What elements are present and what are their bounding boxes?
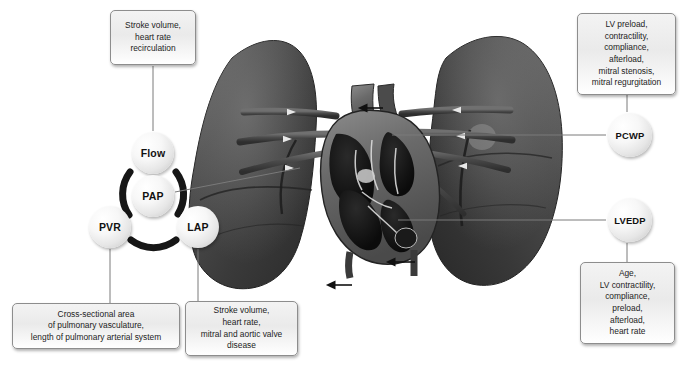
callout-pvr: Cross-sectional area of pulmonary vascul… [12, 303, 180, 349]
pressure-ring-arc [123, 172, 130, 215]
node-pcwp[interactable]: PCWP [608, 113, 652, 157]
diagram-canvas: Stroke volume, heart rate recirculation … [0, 0, 682, 368]
callout-lvedp: Age, LV contractility, compliance, prelo… [580, 262, 675, 344]
callout-flow: Stroke volume, heart rate recirculation [110, 10, 196, 65]
pressure-ring-arc-3 [131, 240, 176, 248]
node-flow[interactable]: Flow [132, 132, 174, 174]
node-lvedp[interactable]: LVEDP [608, 198, 652, 242]
callout-lap: Stroke volume, heart rate, mitral and ao… [185, 301, 298, 356]
node-pap[interactable]: PAP [132, 175, 174, 217]
pressure-ring-arc-2 [176, 172, 184, 214]
callout-pcwp: LV preload, contractility, compliance, a… [577, 13, 676, 95]
node-pvr[interactable]: PVR [89, 206, 131, 248]
leader-pap [175, 168, 300, 192]
node-lap[interactable]: LAP [177, 206, 219, 248]
